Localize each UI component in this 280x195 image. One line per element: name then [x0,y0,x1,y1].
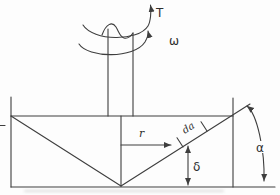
element-dimension: da [177,120,207,147]
element-tick-upper [201,122,207,131]
scan-smudge [24,190,224,193]
angle-label: α [256,141,264,155]
figure-rotating-cone-diagram: T ω r da [0,0,280,195]
torque-label: T [155,6,164,20]
element-label: da [180,120,196,136]
angular-velocity-label: ω [169,34,179,48]
depth-label: δ [193,160,200,174]
element-tick-lower [177,138,183,147]
radius-label: r [139,127,145,140]
angular-velocity-rotation-arrow [79,31,148,55]
radius-dimension: r [121,127,171,145]
angle-dimension: α [247,106,267,181]
angular-velocity-rotation: ω [79,31,179,55]
diagram-canvas: T ω r da [0,0,280,195]
sample-container [0,97,275,187]
cone-left-edge [11,116,121,186]
depth-dimension: δ [188,146,200,185]
torque-rotation-arrow [83,5,151,38]
torque-rotation: T [83,5,164,38]
